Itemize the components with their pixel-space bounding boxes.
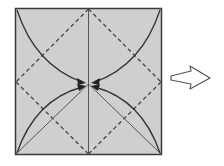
- next-step-arrow-icon: [171, 66, 210, 89]
- origami-diagram: [0, 0, 224, 166]
